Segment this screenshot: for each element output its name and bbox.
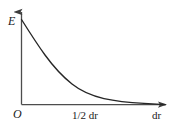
y-axis-label-E: E: [8, 15, 15, 27]
origin-label-O: O: [13, 108, 22, 120]
x-tick-label-half-dr: 1/2 dr: [72, 110, 98, 121]
decay-curve-line: [22, 20, 166, 105]
x-tick-label-dr: dr: [152, 110, 161, 121]
decay-curve-figure: E O 1/2 dr dr: [0, 0, 179, 133]
